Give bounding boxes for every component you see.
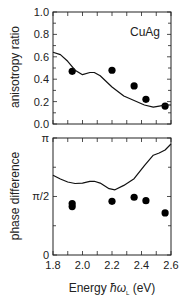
y-tick-label: 0.2 <box>34 96 49 108</box>
theory-curve <box>53 52 171 107</box>
x-tick-label: 2.4 <box>134 259 149 271</box>
bottom-y-axis-label: phase difference <box>8 151 22 240</box>
y-tick-label: 0.6 <box>34 51 49 63</box>
x-tick-label: 2.0 <box>75 259 90 271</box>
cuag-annotation: CuAg <box>130 25 160 39</box>
data-point <box>131 82 138 89</box>
chart-figure: 0.00.20.40.60.81.0 0π/2π1.82.02.22.42.6 … <box>0 0 180 303</box>
data-point <box>142 96 149 103</box>
data-point <box>131 194 138 201</box>
y-tick-label: π/2 <box>32 190 49 202</box>
x-tick-label: 2.2 <box>104 259 119 271</box>
data-point <box>108 198 115 205</box>
y-tick-label: 0.8 <box>34 28 49 40</box>
x-tick-label: 1.8 <box>45 259 60 271</box>
y-tick-label: π <box>41 132 49 144</box>
data-point <box>69 203 76 210</box>
x-tick-label: 2.6 <box>163 259 178 271</box>
data-point <box>142 197 149 204</box>
data-point <box>162 209 169 216</box>
y-tick-label: 1.0 <box>34 6 49 18</box>
x-axis-label: Energy ħωL (eV) <box>69 281 156 296</box>
data-point <box>108 67 115 74</box>
theory-curve <box>53 144 171 190</box>
top-y-axis-label: anisotropy ratio <box>8 26 22 108</box>
phase-panel: 0π/2π1.82.02.22.42.6 <box>32 132 178 271</box>
y-tick-label: 0.0 <box>34 118 49 130</box>
y-tick-label: 0.4 <box>34 73 49 85</box>
